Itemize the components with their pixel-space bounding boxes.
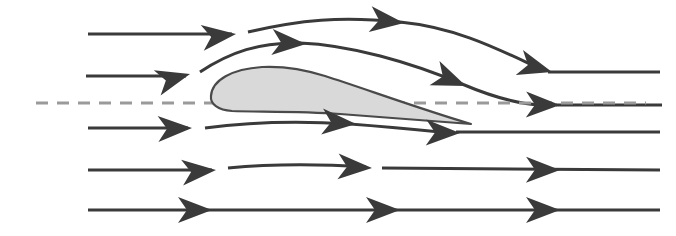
flow-field-canvas: Airflow over an airfoil (0, 0, 676, 236)
airfoil-flow-diagram: Airflow over an airfoil (0, 0, 676, 236)
